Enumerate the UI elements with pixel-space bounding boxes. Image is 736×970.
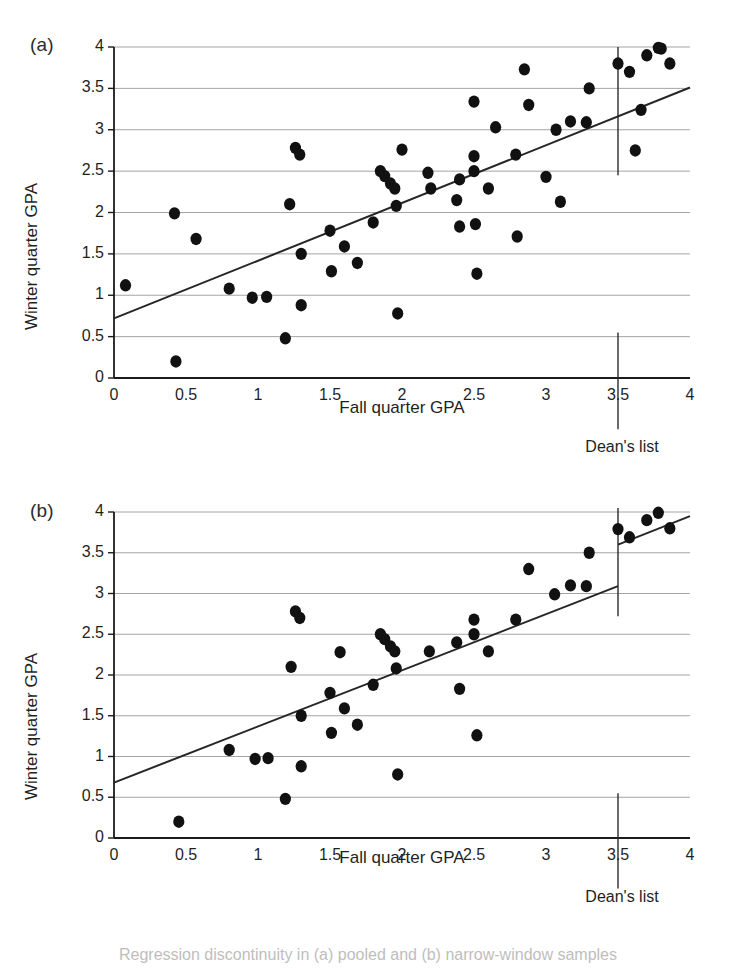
data-point: [280, 793, 291, 805]
data-point: [664, 57, 675, 69]
y-tick-label: 2.5: [52, 624, 104, 642]
x-tick-label: 1: [233, 386, 283, 404]
data-point: [581, 580, 592, 592]
data-point: [224, 744, 235, 756]
y-tick-label: 0.5: [52, 327, 104, 345]
data-point: [555, 196, 566, 208]
data-point: [510, 613, 521, 625]
data-point: [173, 816, 184, 828]
x-tick-label: 3: [521, 386, 571, 404]
data-point: [512, 230, 523, 242]
data-point: [326, 265, 337, 277]
regression-line: [114, 88, 690, 319]
data-point: [324, 687, 335, 699]
data-point: [490, 121, 501, 133]
y-tick-label: 1.5: [52, 706, 104, 724]
data-point: [483, 645, 494, 657]
data-point: [339, 702, 350, 714]
y-tick-label: 2: [52, 665, 104, 683]
data-point: [612, 523, 623, 535]
data-point: [324, 225, 335, 237]
data-point: [641, 514, 652, 526]
data-point: [286, 661, 297, 673]
data-point: [284, 198, 295, 210]
y-tick-label: 1: [52, 285, 104, 303]
data-point: [352, 719, 363, 731]
data-point: [391, 662, 402, 674]
data-point: [451, 636, 462, 648]
data-point: [296, 248, 307, 260]
x-tick-label: 1.5: [305, 846, 355, 864]
data-point: [471, 729, 482, 741]
data-point: [392, 768, 403, 780]
x-tick-label: 4: [665, 386, 715, 404]
data-point: [523, 563, 534, 575]
data-point: [391, 200, 402, 212]
data-point: [468, 165, 479, 177]
data-point: [612, 57, 623, 69]
data-point: [396, 143, 407, 155]
figure-container: (a) Winter quarter GPA Fall quarter GPA …: [0, 0, 736, 970]
data-point: [584, 82, 595, 94]
data-point: [584, 547, 595, 559]
x-tick-label: 2: [377, 386, 427, 404]
data-point: [170, 355, 181, 367]
data-point: [339, 240, 350, 252]
data-point: [422, 167, 433, 179]
x-tick-label: 2.5: [449, 846, 499, 864]
data-point: [470, 218, 481, 230]
data-point: [550, 124, 561, 136]
data-point: [581, 116, 592, 128]
data-point: [641, 49, 652, 61]
data-point: [549, 588, 560, 600]
data-point: [389, 645, 400, 657]
x-tick-label: 0.5: [161, 846, 211, 864]
x-tick-label: 1.5: [305, 386, 355, 404]
data-point: [483, 182, 494, 194]
data-point: [190, 233, 201, 245]
data-point: [296, 710, 307, 722]
data-point: [326, 727, 337, 739]
data-point: [635, 104, 646, 116]
x-tick-label: 3: [521, 846, 571, 864]
regression-line: [114, 586, 618, 782]
y-tick-label: 1.5: [52, 244, 104, 262]
y-tick-label: 4: [52, 502, 104, 520]
data-point: [540, 171, 551, 183]
x-tick-label: 3.5: [593, 846, 643, 864]
data-point: [630, 144, 641, 156]
data-point: [656, 42, 667, 54]
data-point: [169, 207, 180, 219]
data-point: [296, 760, 307, 772]
y-tick-label: 0: [52, 368, 104, 386]
x-tick-label: 4: [665, 846, 715, 864]
data-point: [294, 612, 305, 624]
data-point: [653, 507, 664, 519]
data-point: [120, 279, 131, 291]
data-point: [454, 220, 465, 232]
data-point: [352, 257, 363, 269]
data-point: [389, 182, 400, 194]
data-point: [451, 194, 462, 206]
data-point: [425, 182, 436, 194]
data-point: [280, 332, 291, 344]
panel-a: (a) Winter quarter GPA Fall quarter GPA …: [0, 0, 736, 460]
data-point: [624, 66, 635, 78]
data-point: [247, 292, 258, 304]
data-point: [392, 307, 403, 319]
data-point: [565, 115, 576, 127]
x-tick-label: 2: [377, 846, 427, 864]
y-tick-label: 4: [52, 37, 104, 55]
panel-b: (b) Winter quarter GPA Fall quarter GPA …: [0, 460, 736, 910]
y-tick-label: 2: [52, 203, 104, 221]
y-tick-label: 0.5: [52, 787, 104, 805]
data-point: [296, 299, 307, 311]
x-tick-label: 0.5: [161, 386, 211, 404]
data-point: [262, 752, 273, 764]
data-point: [519, 63, 530, 75]
data-point: [454, 173, 465, 185]
data-point: [468, 628, 479, 640]
data-point: [565, 579, 576, 591]
y-tick-label: 3: [52, 584, 104, 602]
data-point: [224, 282, 235, 294]
